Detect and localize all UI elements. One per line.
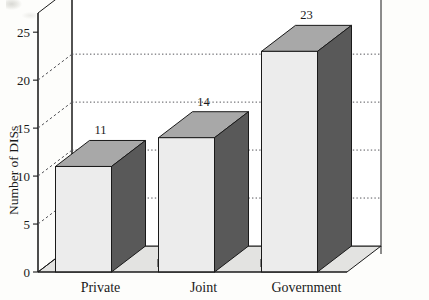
bar-value-label: 23 xyxy=(300,8,313,22)
bar-front-face xyxy=(262,51,318,272)
x-axis-category-label: Private xyxy=(81,280,121,295)
y-axis-tick-label: 0 xyxy=(24,265,31,280)
y-axis-title-label: Number of DISs xyxy=(6,126,21,215)
bar-value-label: 11 xyxy=(94,123,106,137)
y-axis-tick-label: 5 xyxy=(24,217,31,232)
bar-front-face xyxy=(159,138,215,272)
bar-front-face xyxy=(56,166,112,272)
bar-chart-figure: 2520151050 111423 PrivateJointGovernment… xyxy=(0,0,429,300)
bar-side-face xyxy=(318,25,352,272)
x-axis-category-label: Government xyxy=(272,280,342,295)
x-axis-category-label: Joint xyxy=(190,280,217,295)
bar-3d: 23 xyxy=(262,8,352,272)
y-axis-title: Number of DISs xyxy=(6,126,21,215)
y-axis-tick-label: 25 xyxy=(17,25,30,40)
chart-canvas: 2520151050 111423 PrivateJointGovernment… xyxy=(0,0,429,300)
bar-value-label: 14 xyxy=(197,95,210,109)
bar-side-face xyxy=(215,112,249,272)
y-axis-tick-label: 20 xyxy=(17,73,30,88)
